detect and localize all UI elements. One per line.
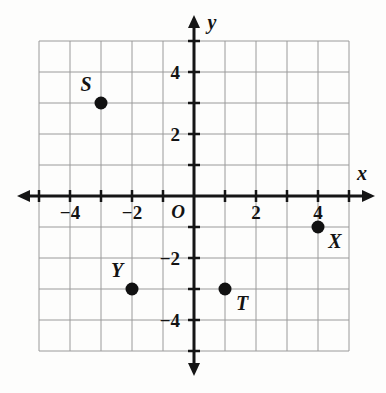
point-label-s: S	[80, 73, 91, 95]
y-axis-label: y	[206, 11, 217, 34]
point-label-t: T	[236, 292, 249, 314]
x-tick-label: −2	[122, 202, 142, 223]
origin-label: O	[171, 201, 185, 222]
y-tick-label: 2	[171, 124, 181, 145]
y-tick-label: −4	[160, 310, 181, 331]
point-label-x: X	[327, 230, 342, 252]
coordinate-plane-figure: −4−22442−2−4 O x y SXYT	[0, 0, 386, 393]
x-axis-label: x	[356, 162, 367, 184]
x-tick-label: 4	[313, 202, 323, 223]
point-marker	[95, 97, 108, 110]
y-tick-label: 4	[171, 62, 181, 83]
point-marker	[312, 221, 325, 234]
point-marker	[126, 283, 139, 296]
x-tick-label: 2	[251, 202, 261, 223]
point-marker	[219, 283, 232, 296]
y-tick-label: −2	[160, 248, 180, 269]
plot-canvas: −4−22442−2−4 O x y SXYT	[0, 0, 386, 393]
x-tick-label: −4	[60, 202, 81, 223]
point-label-y: Y	[111, 259, 125, 281]
